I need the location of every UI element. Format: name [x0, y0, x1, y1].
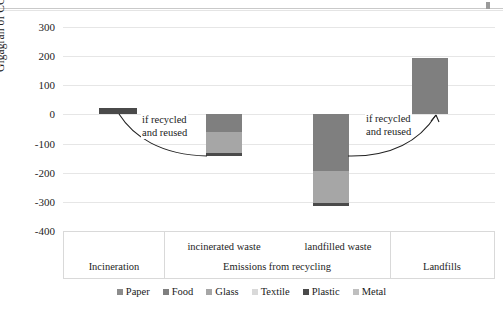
category-sublabel-incinerated: incinerated waste [164, 241, 284, 252]
annotation-right: if recycled and reused [365, 113, 412, 138]
bar-segment-landfilled-waste-glass [313, 171, 349, 203]
y-tick-neg400: -400 [35, 226, 55, 237]
bar-landfills [412, 27, 448, 231]
category-label-landfills: Landfills [390, 261, 494, 272]
annotation-right-line2: and reused [366, 126, 411, 139]
bar-segment-landfilled-waste-plastic [313, 203, 349, 205]
y-axis-tick-labels: 3002001000-100-200-300-400 [0, 0, 63, 313]
category-label-recycling: Emissions from recycling [164, 261, 390, 272]
chart-page: Gigagran of CO2-eq 3002001000-100-200-30… [0, 0, 503, 313]
legend-item-metal: Metal [353, 286, 387, 297]
legend-swatch-plastic [303, 289, 309, 295]
annotation-left-line1: if recycled [142, 114, 187, 127]
page-top-rule [0, 8, 503, 9]
annotation-left-line2: and reused [142, 127, 187, 140]
bar-landfilled-waste [313, 27, 349, 231]
bar-segment-landfilled-waste-food [313, 114, 349, 171]
legend-item-glass: Glass [206, 286, 238, 297]
legend-item-food: Food [163, 286, 194, 297]
category-sublabel-landfilled: landfilled waste [280, 241, 396, 252]
legend-swatch-textile [252, 289, 258, 295]
y-tick-300: 300 [39, 22, 56, 33]
y-tick-neg200: -200 [35, 168, 55, 179]
bar-segment-incineration-plastic [99, 108, 137, 114]
annotation-right-line1: if recycled [366, 113, 411, 126]
plot-area [63, 27, 495, 231]
legend-swatch-food [163, 289, 169, 295]
page-top-rule-secondary [0, 10, 503, 11]
y-tick-neg100: -100 [35, 139, 55, 150]
category-label-incineration: Incineration [64, 261, 164, 272]
legend-swatch-paper [117, 289, 123, 295]
chart-legend: PaperFoodGlassTextilePlasticMetal [0, 286, 503, 297]
bar-segment-landfills-food [412, 58, 448, 115]
page-top-marker [486, 2, 490, 9]
legend-item-textile: Textile [252, 286, 290, 297]
legend-swatch-glass [206, 289, 212, 295]
legend-item-paper: Paper [117, 286, 150, 297]
bar-segment-incinerated-waste-plastic [206, 153, 242, 155]
legend-swatch-metal [353, 289, 359, 295]
legend-label-food: Food [172, 286, 194, 297]
bar-incineration [99, 27, 137, 231]
y-tick-200: 200 [39, 51, 56, 62]
legend-label-plastic: Plastic [312, 286, 340, 297]
bar-segment-incinerated-waste-food [206, 114, 242, 132]
category-axis-band: incinerated waste landfilled waste Incin… [63, 231, 495, 279]
bar-segment-incinerated-waste-glass [206, 132, 242, 153]
annotation-left: if recycled and reused [141, 114, 188, 139]
y-tick-neg300: -300 [35, 197, 55, 208]
legend-label-paper: Paper [126, 286, 150, 297]
y-tick-100: 100 [39, 80, 56, 91]
legend-label-metal: Metal [362, 286, 387, 297]
legend-label-textile: Textile [261, 286, 290, 297]
legend-item-plastic: Plastic [303, 286, 340, 297]
bar-incinerated-waste [206, 27, 242, 231]
legend-label-glass: Glass [215, 286, 238, 297]
y-tick-0: 0 [50, 109, 56, 120]
